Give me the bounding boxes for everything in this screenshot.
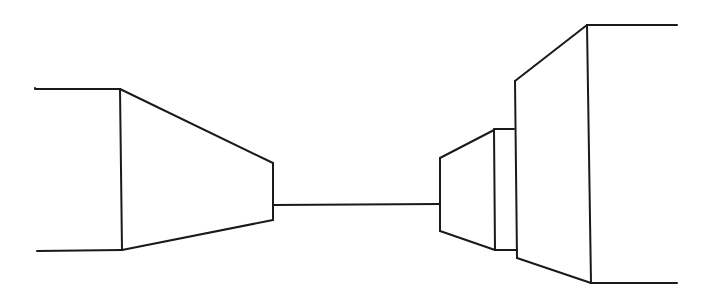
right-large-far-vertical [515,81,517,258]
right-small-block [440,130,495,250]
left-block-near-vertical [120,89,122,250]
left-block-bottom-receding [122,220,273,250]
right-large-bottom-receding [517,258,591,283]
left-block-top-receding [120,89,273,163]
right-step [494,129,517,250]
right-large-top-receding [515,25,587,81]
left-block [35,88,273,251]
horizon-line [273,204,440,205]
perspective-drawing [0,0,712,306]
right-large-block [515,25,677,283]
right-large-near-vertical [587,25,591,283]
right-small-near-vertical [494,130,495,250]
right-small-top-receding [440,130,494,158]
right-small-bottom-receding [440,231,495,250]
left-block-bottom-edge [37,250,122,251]
left-block-top-edge [35,88,120,89]
